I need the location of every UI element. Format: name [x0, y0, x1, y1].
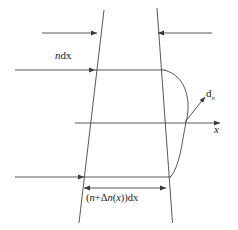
figure-container: ndx (n+Δn(x))dx x dn: [0, 0, 238, 230]
x-axis-label: x: [214, 124, 219, 135]
incident-ray-differential: dx: [61, 49, 72, 61]
normal-label-subscript: n: [212, 94, 215, 101]
right-boundary-line: [157, 8, 173, 223]
normal-vector-label: dn: [206, 88, 215, 102]
slab-thickness-label: (n+Δn(x))dx: [86, 193, 138, 204]
incident-ray-label: ndx: [55, 50, 72, 61]
thickness-differential: dx: [128, 192, 139, 203]
